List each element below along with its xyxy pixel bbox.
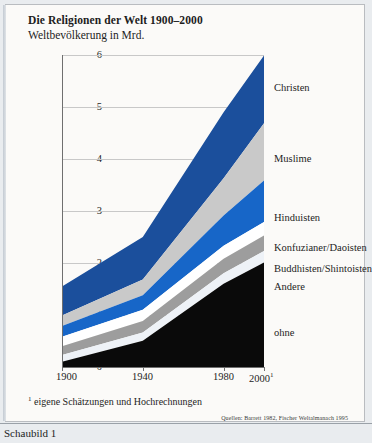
page-background: Die Religionen der Welt 1900–2000 Weltbe… xyxy=(0,0,372,443)
series-label-buddhisten: Buddhisten/Shintoisten xyxy=(274,263,372,274)
plot-area xyxy=(62,55,264,367)
x-tick-2000-label: 2000 xyxy=(249,373,270,384)
x-tick-1940: 1940 xyxy=(132,371,153,382)
figure-caption: Schaubild 1 xyxy=(4,427,56,439)
series-label-konfuzianer: Konfuzianer/Daoisten xyxy=(274,242,367,253)
chart-subtitle: Weltbevölkerung in Mrd. xyxy=(28,29,144,41)
source-note: Quellen: Barrett 1982, Fischer Weltalman… xyxy=(221,415,348,421)
stacked-area-chart xyxy=(62,55,264,367)
figure-card: Die Religionen der Welt 1900–2000 Weltbe… xyxy=(5,4,365,422)
footnote: 1 eigene Schätzungen und Hochrechnungen xyxy=(28,395,202,407)
y-axis-line xyxy=(62,55,63,368)
x-tick-1980: 1980 xyxy=(213,371,234,382)
series-label-hinduisten: Hinduisten xyxy=(274,212,320,223)
series-label-andere: Andere xyxy=(274,281,305,292)
series-label-muslime: Muslime xyxy=(274,153,311,164)
series-label-ohne: ohne xyxy=(274,327,294,338)
x-tick-2000: 20001 xyxy=(249,371,274,384)
x-axis-line xyxy=(62,367,265,368)
chart-title: Die Religionen der Welt 1900–2000 xyxy=(28,14,203,26)
series-label-christen: Christen xyxy=(274,82,310,93)
x-tick-2000-superscript: 1 xyxy=(270,371,274,379)
footnote-text: eigene Schätzungen und Hochrechnungen xyxy=(34,396,202,407)
bottom-divider xyxy=(0,423,372,424)
x-tick-1900: 1900 xyxy=(56,371,77,382)
footnote-marker: 1 xyxy=(28,395,32,403)
